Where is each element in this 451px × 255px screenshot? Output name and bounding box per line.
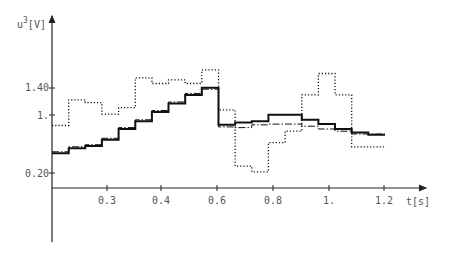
series-layer (52, 70, 385, 172)
step-chart: 0.20 1. 1.40 0.3 0.4 0.6 0.8 1. 1.2 t[s]… (0, 0, 451, 255)
x-tick-label: 1. (323, 195, 335, 206)
y-tick-label: 1. (37, 110, 49, 121)
y-tick-label: 1.40 (25, 82, 49, 93)
x-tick-label: 0.3 (98, 195, 116, 206)
x-tick-label: 1.2 (375, 195, 393, 206)
x-tick-label: 0.4 (152, 195, 170, 206)
x-tick-label: 0.6 (208, 195, 226, 206)
y-axis-title-unit: [V] (28, 19, 46, 30)
y-axis-title: u3[V] (17, 16, 46, 30)
y-tick-label: 0.20 (25, 168, 49, 179)
x-tick-label: 0.8 (264, 195, 282, 206)
x-axis-title: t[s] (406, 196, 430, 207)
